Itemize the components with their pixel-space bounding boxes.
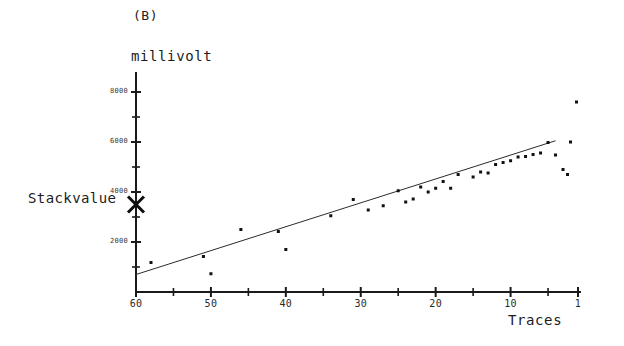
- scatter-series: [149, 101, 578, 276]
- chart-figure: (B) millivolt Traces Stackvalue 20004000…: [0, 0, 624, 346]
- axis-lines: [135, 72, 581, 294]
- y-tick-label: 4000: [94, 187, 128, 195]
- x-tick-label: 20: [423, 298, 449, 309]
- trendline-series: [136, 141, 556, 275]
- x-tick-label: 50: [198, 298, 224, 309]
- x-tick-label: 10: [498, 298, 524, 309]
- y-tick-label: 8000: [94, 87, 128, 95]
- y-tick-label: 6000: [94, 137, 128, 145]
- x-tick-label: 60: [123, 298, 149, 309]
- chart-plot-area: [0, 0, 624, 346]
- x-tick-label: 1: [565, 298, 591, 309]
- x-tick-label: 40: [273, 298, 299, 309]
- y-tick-label: 2000: [94, 237, 128, 245]
- x-tick-label: 30: [348, 298, 374, 309]
